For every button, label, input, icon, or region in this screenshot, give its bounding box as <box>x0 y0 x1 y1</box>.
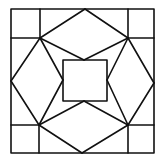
diamond-edge <box>11 81 39 125</box>
inner-spoke <box>84 38 128 60</box>
quilt-diagram <box>0 0 164 160</box>
inner-spoke <box>107 38 128 80</box>
diamond-edge <box>82 125 128 153</box>
inner-spoke <box>84 101 128 125</box>
inner-spoke <box>107 80 128 125</box>
diamond-edge <box>11 38 40 81</box>
inner-square <box>63 60 107 101</box>
diamond-edge <box>40 9 85 38</box>
diamond-edge <box>128 83 154 125</box>
diamond-edge <box>85 9 128 38</box>
diamond-edge <box>128 38 154 83</box>
diamond-edge <box>39 125 82 153</box>
outer-square <box>11 9 154 153</box>
diagram-svg <box>0 0 164 160</box>
